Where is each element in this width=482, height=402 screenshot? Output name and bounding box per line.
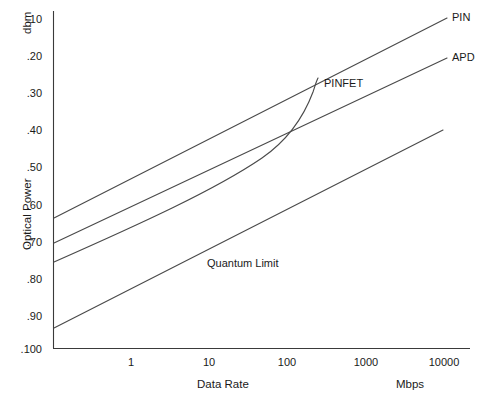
x-tick-label: 1 bbox=[101, 357, 161, 368]
series-line-apd bbox=[54, 58, 447, 243]
x-tick-label: 10 bbox=[179, 357, 239, 368]
y-tick-label: .50 bbox=[8, 162, 42, 173]
series-line-pin bbox=[54, 18, 447, 218]
y-tick-label: .80 bbox=[8, 274, 42, 285]
x-tick-label: 1000 bbox=[336, 357, 396, 368]
series-label-pinfet: PINFET bbox=[324, 78, 363, 89]
y-tick-label: .60 bbox=[8, 200, 42, 211]
series-label-apd: APD bbox=[452, 52, 475, 63]
y-tick-label: .70 bbox=[8, 237, 42, 248]
y-tick-label: .90 bbox=[8, 311, 42, 322]
x-tick-label: 100 bbox=[257, 357, 317, 368]
chart-plot-area bbox=[0, 0, 482, 402]
series-line-pinfet bbox=[54, 78, 318, 262]
optical-power-chart: dbm Optical Power .10 .20 .30 .40 .50 .6… bbox=[0, 0, 482, 402]
series-line-quantum-limit bbox=[54, 130, 443, 328]
y-tick-label: .100 bbox=[8, 344, 42, 355]
y-tick-label: .10 bbox=[8, 14, 42, 25]
x-axis-title: Data Rate bbox=[197, 379, 249, 391]
y-tick-label: .30 bbox=[8, 88, 42, 99]
x-axis-unit-label: Mbps bbox=[396, 379, 424, 391]
series-label-quantum-limit: Quantum Limit bbox=[207, 258, 279, 269]
y-tick-label: .40 bbox=[8, 125, 42, 136]
series-label-pin: PIN bbox=[452, 12, 470, 23]
y-tick-label: .20 bbox=[8, 51, 42, 62]
x-tick-label: 10000 bbox=[414, 357, 474, 368]
